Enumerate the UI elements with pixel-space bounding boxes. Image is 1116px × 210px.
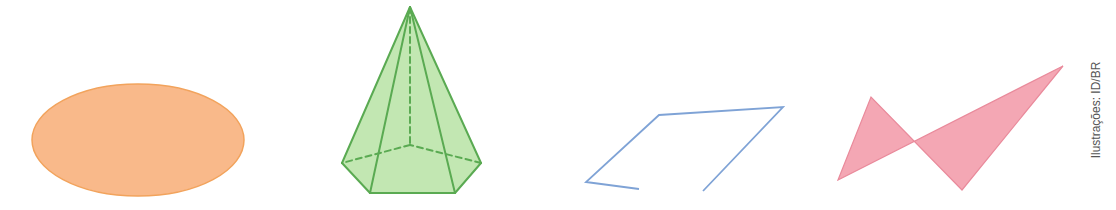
figures-canvas (0, 0, 1116, 210)
orange-ellipse (32, 84, 244, 196)
pyramid-silhouette (342, 7, 481, 193)
illustration-credit: Ilustrações: ID/BR (1086, 40, 1106, 180)
green-pentagonal-pyramid (342, 7, 481, 193)
blue-open-polyline (586, 107, 783, 191)
credit-text: Ilustrações: ID/BR (1089, 62, 1103, 159)
pink-self-intersecting-polygon (838, 66, 1063, 190)
